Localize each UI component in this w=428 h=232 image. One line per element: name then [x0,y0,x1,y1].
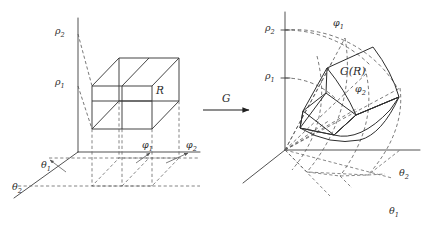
base-tick-b [368,174,385,175]
left-rho2-label: ρ2 [55,26,65,38]
left-theta1-label: θ1 [41,160,51,172]
arrow-label-G: G [222,93,230,104]
left-rho1-label: ρ1 [55,77,65,89]
left-base-pointers [50,153,188,172]
right-theta2-label: θ2 [399,168,409,180]
rho1-guide [78,86,92,129]
box-edge-tr [152,58,179,86]
box-edge-br [152,101,179,129]
right-oblique-axis [243,150,285,183]
left-theta2-label: θ2 [12,182,22,194]
left-rho-guides [78,34,92,129]
left-phi2-label: φ2 [186,140,197,152]
ray-inner-c [285,108,358,150]
base-tick-a [340,176,352,188]
rho1-arc [285,78,336,99]
right-origin-rays [285,38,400,150]
box-interior-diag-top [122,58,149,86]
rho2-guide [78,34,92,86]
right-rho1-label: ρ1 [265,71,275,83]
right-rho2-label: ρ2 [265,23,275,35]
right-phi1-label: φ1 [333,18,344,30]
spherical-coordinates-figure: ρ2 ρ1 θ1 θ2 φ1 φ2 R G ρ2 ρ1 φ1 φ2 G(R) θ… [0,0,428,232]
ray-inner-d [285,120,330,150]
wedge-outer-face [327,47,399,115]
box-edge-tl [92,58,119,86]
ray-phi2 [285,88,400,150]
box-edge-bl [92,101,119,129]
rho2-arc [285,30,370,65]
left-base-projection [18,101,200,186]
region-GR-label: G(R) [340,66,366,77]
meridian-phi1 [307,38,347,172]
base-wedge-outline [285,150,400,175]
region-R-label: R [156,85,164,96]
right-theta1-label: θ1 [389,206,399,218]
base-grid-diag [122,158,149,186]
box-R [92,58,179,129]
right-phi2-label: φ2 [355,84,366,96]
left-phi1-label: φ1 [142,140,153,152]
